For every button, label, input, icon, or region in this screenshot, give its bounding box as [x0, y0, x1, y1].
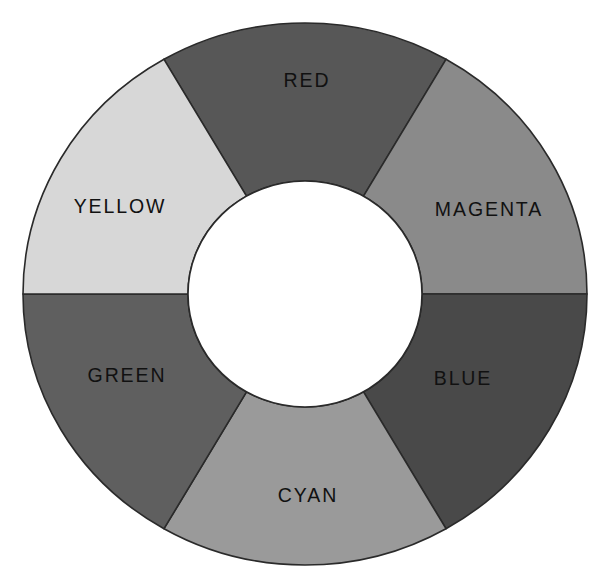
segment-label-yellow: YELLOW [74, 195, 167, 217]
segment-label-green: GREEN [88, 364, 167, 386]
segment-label-blue: BLUE [434, 367, 493, 389]
segment-label-magenta: MAGENTA [435, 198, 543, 220]
segment-label-cyan: CYAN [278, 484, 338, 506]
wheel-center-hub [188, 181, 422, 407]
color-wheel-figure: REDMAGENTABLUECYANGREENYELLOW [0, 0, 608, 584]
segment-label-red: RED [284, 69, 331, 91]
color-wheel-svg: REDMAGENTABLUECYANGREENYELLOW [0, 0, 608, 584]
